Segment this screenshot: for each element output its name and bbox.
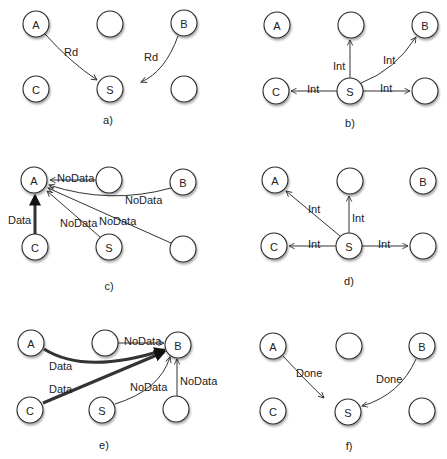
node-unlabeled [412, 78, 438, 104]
node-c: C [17, 397, 43, 423]
panel-f: DoneDoneABCSf) [260, 333, 435, 452]
panel-caption: b) [345, 117, 355, 129]
panel-a: RdRdABCSa) [23, 10, 197, 126]
node-label: C [269, 406, 277, 418]
node-label: S [344, 407, 351, 419]
panel-b: IntIntIntIntABCSb) [263, 12, 438, 129]
panel-c: DataNoDataNoDataNoDataNoDataABCSc) [8, 167, 196, 292]
node-c: C [260, 398, 286, 424]
node-label: B [179, 177, 186, 189]
node-s: S [96, 234, 122, 260]
node-circle [409, 398, 435, 424]
edge-s-to-a-arrow [47, 191, 100, 237]
node-unlabeled [163, 396, 189, 422]
node-unlabeled [171, 76, 197, 102]
node-a: A [264, 12, 290, 38]
panel-caption: e) [99, 439, 109, 451]
node-circle [336, 333, 362, 359]
node-b: B [412, 12, 438, 38]
protocol-diagram: RdRdABCSa)IntIntIntIntABCSb)DataNoDataNo… [0, 0, 447, 459]
node-circle [163, 396, 189, 422]
node-label: B [421, 20, 428, 32]
node-unlabeled [170, 236, 196, 262]
node-s: S [336, 233, 362, 259]
node-unlabeled [96, 167, 122, 193]
node-unlabeled [409, 398, 435, 424]
node-unlabeled [410, 233, 436, 259]
edge-label: Done [376, 373, 402, 385]
panels-layer: RdRdABCSa)IntIntIntIntABCSb)DataNoDataNo… [8, 10, 438, 452]
node-label: C [270, 241, 278, 253]
edge-label: Rd [64, 46, 78, 58]
edge-label: Int [383, 54, 395, 66]
node-unlabeled [336, 333, 362, 359]
node-label: C [272, 86, 280, 98]
edge-label: Int [333, 60, 345, 72]
node-unlabeled [92, 330, 118, 356]
node-circle [92, 330, 118, 356]
node-b: B [171, 10, 197, 36]
node-a: A [23, 11, 49, 37]
edge-label: NoData [180, 375, 218, 387]
node-b: B [409, 333, 435, 359]
node-b: B [170, 169, 196, 195]
edge-label: Int [308, 203, 320, 215]
node-label: B [174, 340, 181, 352]
node-s: S [337, 78, 363, 104]
node-label: S [106, 84, 113, 96]
node-b: B [165, 332, 191, 358]
node-circle [97, 11, 123, 37]
node-c: C [263, 78, 289, 104]
node-label: B [180, 18, 187, 30]
edge-label: NoData [60, 217, 98, 229]
edge-label: Int [380, 82, 392, 94]
node-c: C [261, 233, 287, 259]
node-label: A [27, 338, 35, 350]
node-unlabeled [97, 11, 123, 37]
node-a: A [262, 167, 288, 193]
node-c: C [22, 234, 48, 260]
edge-label: Int [378, 238, 390, 250]
edge-label: Int [307, 83, 319, 95]
edge-label: Data [8, 214, 32, 226]
node-label: A [269, 341, 277, 353]
node-label: A [30, 175, 38, 187]
node-b: B [410, 168, 436, 194]
node-label: B [419, 176, 426, 188]
node-label: S [345, 241, 352, 253]
edge-label: Int [308, 238, 320, 250]
node-circle [96, 167, 122, 193]
node-label: A [271, 175, 279, 187]
panel-caption: c) [104, 280, 113, 292]
node-label: A [273, 20, 281, 32]
panel-caption: f) [346, 440, 353, 452]
node-s: S [89, 397, 115, 423]
node-label: S [105, 242, 112, 254]
node-label: S [98, 405, 105, 417]
panel-caption: a) [103, 114, 113, 126]
node-label: B [418, 341, 425, 353]
panel-d: IntIntIntIntABCSd) [261, 167, 436, 287]
node-circle [412, 78, 438, 104]
edge-label: NoData [99, 215, 137, 227]
node-circle [410, 233, 436, 259]
edge-label: NoData [125, 194, 163, 206]
panel-e: DataDataNoDataNoDataNoDataABCSe) [17, 330, 218, 451]
node-label: C [31, 242, 39, 254]
node-circle [170, 236, 196, 262]
node-s: S [97, 76, 123, 102]
node-a: A [21, 167, 47, 193]
edge-label: NoData [124, 335, 162, 347]
node-a: A [260, 333, 286, 359]
node-c: C [23, 76, 49, 102]
edge-label: Data [49, 360, 73, 372]
node-label: S [346, 86, 353, 98]
edge-label: Data [49, 383, 73, 395]
node-label: A [32, 19, 40, 31]
edge-label: Int [352, 212, 364, 224]
node-s: S [335, 399, 361, 425]
node-label: C [26, 405, 34, 417]
node-unlabeled [337, 168, 363, 194]
node-circle [337, 168, 363, 194]
node-circle [338, 12, 364, 38]
